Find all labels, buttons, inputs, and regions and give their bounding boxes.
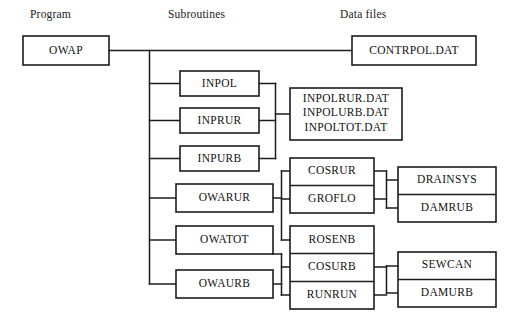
node-group-sewcan-damurb: SEWCAN DAMURB — [398, 252, 496, 307]
node-owaurb-label: OWAURB — [199, 277, 251, 289]
node-inpol-data-files-line-3: INPOLTOT.DAT — [305, 121, 388, 133]
node-group-drainsys-damrub: DRAINSYS DAMRUB — [398, 167, 496, 222]
node-cosrur[interactable]: COSRUR — [290, 158, 374, 186]
node-groflo-label: GROFLO — [308, 192, 356, 204]
node-owatot[interactable]: OWATOT — [176, 226, 273, 254]
node-owarur[interactable]: OWARUR — [176, 184, 273, 212]
node-inprur[interactable]: INPRUR — [180, 108, 259, 133]
node-inpol[interactable]: INPOL — [180, 71, 259, 96]
node-owatot-label: OWATOT — [200, 233, 249, 245]
column-headers: Program Subroutines Data files — [30, 8, 387, 21]
node-inpol-data-files[interactable]: INPOLRUR.DAT INPOLURB.DAT INPOLTOT.DAT — [290, 88, 402, 140]
node-cosurb-label: COSURB — [308, 260, 356, 272]
node-contrpol-dat-label: CONTRPOL.DAT — [369, 44, 459, 56]
column-header-subroutines: Subroutines — [168, 8, 225, 20]
diagram-canvas: Program Subroutines Data files — [0, 0, 506, 324]
node-damrub[interactable]: DAMRUB — [398, 195, 496, 223]
node-rosenb-label: ROSENB — [308, 233, 355, 245]
node-group-cosrur-groflo: COSRUR GROFLO — [290, 158, 374, 213]
node-inprur-label: INPRUR — [198, 114, 242, 126]
node-sewcan[interactable]: SEWCAN — [398, 252, 496, 280]
node-inpol-data-files-line-2: INPOLURB.DAT — [303, 106, 389, 118]
node-inpol-label: INPOL — [202, 77, 237, 89]
node-owap-label: OWAP — [49, 44, 83, 56]
node-inpurb-label: INPURB — [198, 152, 242, 164]
node-cosurb[interactable]: COSURB — [290, 254, 374, 282]
node-groflo[interactable]: GROFLO — [290, 186, 374, 214]
node-drainsys-label: DRAINSYS — [417, 173, 477, 185]
node-owap[interactable]: OWAP — [23, 36, 109, 65]
node-runrun-label: RUNRUN — [307, 288, 358, 300]
node-contrpol-dat[interactable]: CONTRPOL.DAT — [352, 36, 476, 65]
node-group-rosenb-cosurb-runrun: ROSENB COSURB RUNRUN — [290, 226, 374, 309]
node-damrub-label: DAMRUB — [421, 201, 473, 213]
node-sewcan-label: SEWCAN — [422, 258, 473, 270]
node-owarur-label: OWARUR — [199, 191, 251, 203]
node-inpurb[interactable]: INPURB — [180, 146, 259, 171]
node-damurb[interactable]: DAMURB — [398, 280, 496, 308]
program-structure-diagram: Program Subroutines Data files — [0, 0, 506, 324]
node-inpol-data-files-line-1: INPOLRUR.DAT — [303, 92, 389, 104]
node-drainsys[interactable]: DRAINSYS — [398, 167, 496, 195]
column-header-data-files: Data files — [340, 8, 387, 20]
node-owaurb[interactable]: OWAURB — [176, 270, 273, 298]
node-runrun[interactable]: RUNRUN — [290, 282, 374, 310]
node-damurb-label: DAMURB — [421, 286, 473, 298]
column-header-program: Program — [30, 8, 71, 21]
node-rosenb[interactable]: ROSENB — [290, 226, 374, 254]
node-cosrur-label: COSRUR — [308, 164, 356, 176]
